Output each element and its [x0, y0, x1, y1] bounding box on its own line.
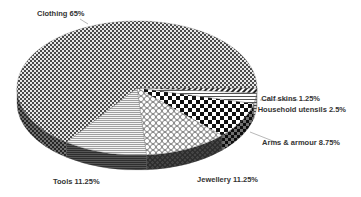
- label-tools: Tools 11.25%: [53, 177, 100, 186]
- label-arms-armour: Arms & armour 8.75%: [262, 138, 340, 147]
- label-clothing: Clothing 65%: [37, 9, 85, 18]
- pie-slices: [17, 21, 257, 170]
- label-household-utensils: Household utensils 2.5%: [258, 105, 347, 114]
- pie-chart: Clothing 65%Calf skins 1.25%Household ut…: [0, 0, 361, 197]
- label-calf-skins: Calf skins 1.25%: [261, 94, 320, 103]
- label-jewellery: Jewellery 11.25%: [197, 175, 258, 184]
- leader-line-clothing: [80, 19, 88, 24]
